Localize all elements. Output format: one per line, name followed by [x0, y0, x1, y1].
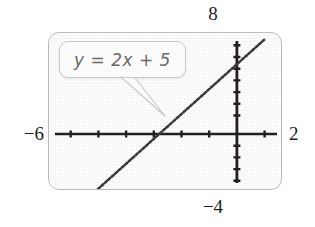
- window-label-ymax: 8: [196, 4, 230, 23]
- window-label-ymin: −4: [190, 197, 236, 216]
- graph-figure: 8 −4 −6 2: [0, 0, 315, 227]
- equation-label: y = 2x + 5: [74, 50, 171, 70]
- window-label-xmax: 2: [289, 124, 311, 143]
- equation-callout: y = 2x + 5: [59, 41, 186, 78]
- calculator-screen: y = 2x + 5: [48, 32, 282, 190]
- callout-tail: [119, 76, 169, 118]
- window-label-xmin: −6: [10, 124, 44, 143]
